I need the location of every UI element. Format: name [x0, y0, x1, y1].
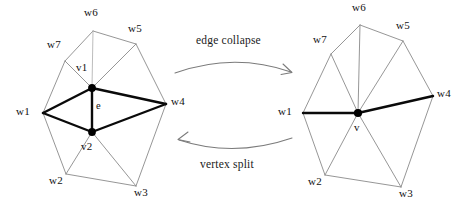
- left-edge-v2-w2: [66, 132, 92, 174]
- right-edge-v-w6: [358, 25, 360, 113]
- right-label-w6: w6: [352, 2, 366, 13]
- operation-arrows: [175, 62, 292, 148]
- right-label-w3: w3: [399, 188, 413, 199]
- right-mesh-thin-edges: [303, 25, 433, 187]
- left-bold-edge-v2-w4: [92, 104, 166, 132]
- left-mesh-thin-edges: [43, 31, 166, 186]
- right-edge-w3-w2: [325, 175, 401, 187]
- right-bold-edge-v-w4: [358, 96, 433, 113]
- right-label-w2: w2: [308, 176, 322, 187]
- left-edge-w7-w6: [65, 31, 93, 61]
- right-label-w1: w1: [278, 106, 292, 117]
- left-edge-w4-w3: [136, 104, 166, 186]
- left-label-w3: w3: [134, 187, 148, 198]
- left-edge-w3-w2: [66, 174, 136, 186]
- mesh-diagram-canvas: [0, 0, 468, 208]
- left-label-e: e: [96, 101, 101, 112]
- left-mesh-bold-edges: [43, 88, 166, 132]
- vertex-dot-v1: [88, 84, 96, 92]
- right-edge-v-w5: [358, 41, 403, 113]
- right-label-w4: w4: [437, 88, 451, 99]
- left-label-w5: w5: [128, 23, 142, 34]
- left-label-w6: w6: [84, 7, 98, 18]
- vertex-dot-v: [354, 109, 362, 117]
- mesh-operation-figure: w6 w5 w7 v1 w1 e w4 v2 w2 w3 edge collap…: [0, 0, 468, 208]
- right-edge-w5-w4: [403, 41, 433, 96]
- right-label-v: v: [354, 122, 360, 133]
- vertex-split-label: vertex split: [200, 159, 254, 171]
- right-edge-v-w7: [331, 54, 358, 113]
- edge-collapse-arrow-curve: [175, 62, 291, 73]
- edge-collapse-label: edge collapse: [196, 35, 261, 47]
- left-edge-w5-w4: [136, 44, 166, 104]
- left-bold-edge-w1-v1: [43, 88, 92, 113]
- left-edge-w1-w7: [43, 61, 65, 113]
- left-edge-w2-w1: [43, 113, 66, 174]
- right-edge-w4-w3: [401, 96, 433, 187]
- vertex-dot-v2: [88, 128, 96, 136]
- left-edge-v1-w6: [92, 31, 93, 88]
- left-label-w1: w1: [16, 106, 30, 117]
- left-label-v2: v2: [81, 141, 92, 152]
- left-label-w4: w4: [171, 96, 185, 107]
- left-bold-edge-v1-w4: [92, 88, 166, 104]
- right-mesh-bold-edges: [303, 96, 433, 113]
- left-edge-v1-w5: [92, 44, 136, 88]
- right-label-w5: w5: [396, 20, 410, 31]
- left-label-v1: v1: [76, 62, 87, 73]
- right-edge-v-w3: [358, 113, 401, 187]
- right-label-w7: w7: [313, 34, 327, 45]
- right-edge-w1-w7: [303, 54, 331, 113]
- right-mesh-vertices: [354, 109, 362, 117]
- left-label-w2: w2: [49, 175, 63, 186]
- right-edge-w2-w1: [303, 113, 325, 175]
- right-edge-w7-w6: [331, 25, 360, 54]
- vertex-split-arrow-curve: [179, 138, 292, 149]
- left-edge-v2-w3: [92, 132, 136, 186]
- left-label-w7: w7: [47, 39, 61, 50]
- left-bold-edge-w1-v2: [43, 113, 92, 132]
